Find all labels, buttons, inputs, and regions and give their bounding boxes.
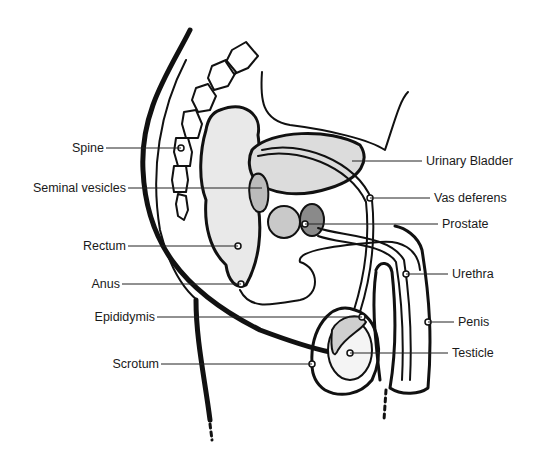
label-prostate: Prostate (442, 217, 489, 231)
label-penis: Penis (458, 315, 489, 329)
label-rectum: Rectum (83, 239, 126, 253)
label-epididymis: Epididymis (95, 310, 155, 324)
label-urinary-bladder: Urinary Bladder (426, 154, 513, 168)
label-urethra: Urethra (452, 267, 494, 281)
label-seminal-vesicles: Seminal vesicles (33, 181, 126, 195)
anatomy-diagram: Spine Seminal vesicles Rectum Anus Epidi… (0, 0, 540, 458)
label-anus: Anus (92, 277, 121, 291)
label-vas-deferens: Vas deferens (434, 191, 507, 205)
label-scrotum: Scrotum (112, 357, 159, 371)
prostate-left (268, 206, 300, 238)
seminal-vesicle (249, 174, 268, 212)
label-spine: Spine (72, 141, 104, 155)
prostate-right (300, 204, 324, 236)
label-testicle: Testicle (452, 346, 494, 360)
